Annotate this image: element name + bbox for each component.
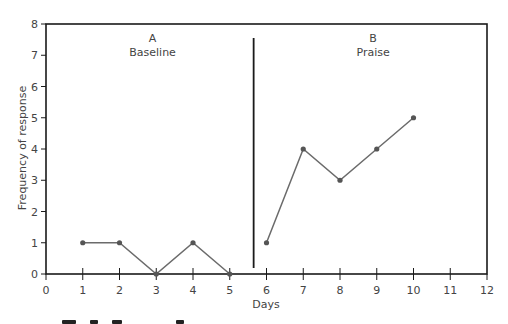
- y-axis-ticks: 012345678: [31, 18, 46, 281]
- data-point-marker: [337, 178, 342, 183]
- x-tick-label: 5: [226, 284, 233, 297]
- x-tick-label: 12: [480, 284, 494, 297]
- phase-letter: B: [369, 32, 377, 45]
- x-tick-label: 9: [373, 284, 380, 297]
- data-point-marker: [154, 271, 159, 276]
- data-point-marker: [190, 240, 195, 245]
- data-point-marker: [301, 146, 306, 151]
- plot-frame: [46, 24, 487, 274]
- data-point-marker: [80, 240, 85, 245]
- y-axis-title: Frequency of response: [16, 86, 29, 211]
- x-tick-label: 6: [263, 284, 270, 297]
- phase-labels: ABaselineBPraise: [129, 32, 390, 59]
- y-tick-label: 3: [31, 174, 38, 187]
- phase-name: Praise: [356, 46, 389, 59]
- data-point-marker: [117, 240, 122, 245]
- data-point-marker: [411, 115, 416, 120]
- x-tick-label: 2: [116, 284, 123, 297]
- ab-design-line-chart: 012345678 0123456789101112 ABaselineBPra…: [0, 0, 508, 324]
- cropped-caption-fragment: [0, 318, 508, 324]
- data-point-marker: [374, 146, 379, 151]
- x-tick-label: 4: [190, 284, 197, 297]
- x-tick-label: 3: [153, 284, 160, 297]
- chart-canvas: 012345678 0123456789101112 ABaselineBPra…: [0, 0, 508, 324]
- y-tick-label: 8: [31, 18, 38, 31]
- phase-letter: A: [149, 32, 157, 45]
- x-tick-label: 11: [443, 284, 457, 297]
- y-tick-label: 4: [31, 143, 38, 156]
- data-series: [80, 115, 416, 276]
- y-tick-label: 5: [31, 112, 38, 125]
- y-tick-label: 2: [31, 206, 38, 219]
- y-tick-label: 1: [31, 237, 38, 250]
- y-tick-label: 6: [31, 81, 38, 94]
- y-tick-label: 7: [31, 49, 38, 62]
- phase-name: Baseline: [129, 46, 176, 59]
- data-point-marker: [227, 271, 232, 276]
- x-tick-label: 7: [300, 284, 307, 297]
- x-tick-label: 8: [337, 284, 344, 297]
- y-tick-label: 0: [31, 268, 38, 281]
- x-axis-ticks: 0123456789101112: [43, 268, 495, 297]
- x-tick-label: 1: [79, 284, 86, 297]
- x-tick-label: 10: [407, 284, 421, 297]
- data-point-marker: [264, 240, 269, 245]
- x-axis-title: Days: [252, 298, 280, 311]
- x-tick-label: 0: [43, 284, 50, 297]
